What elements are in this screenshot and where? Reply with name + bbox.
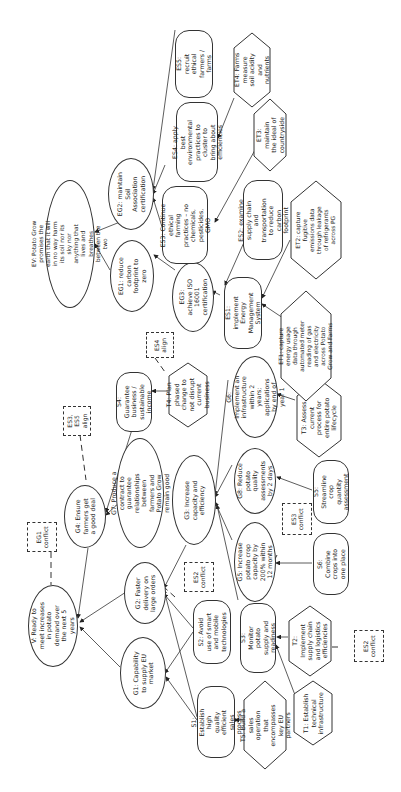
goal-g6-label: G6: Implement an infrastructure within 2… bbox=[225, 375, 286, 419]
goal-g1-label: G1: Capability to supply EU market bbox=[132, 651, 155, 695]
env-strategy-es1-label: ES1: implement Energy Management System bbox=[224, 293, 262, 334]
strategy-node-s1[interactable]: S1: Establish high quality efficient sal… bbox=[197, 686, 235, 758]
annotation-eg1-conflict[interactable]: EG1 conflict bbox=[27, 522, 57, 552]
tactic-t5-label: T5: Build a sales operation that encompa… bbox=[239, 703, 292, 747]
annotation-es4-align[interactable]: ES4 align bbox=[146, 332, 174, 358]
strategy-node-s4[interactable]: S4: Guarantee business / sustainable inc… bbox=[116, 372, 152, 432]
env-tactic-node-et4[interactable]: ET4: Farms measure soil acidity and nutr… bbox=[233, 32, 271, 108]
env-strategy-node-es3[interactable]: ES3: Continue ethical farming practices … bbox=[162, 186, 208, 264]
vision-label: V: Ready to meet increases in potato dem… bbox=[30, 602, 75, 650]
tactic-t2-label: T2: Implement supply chain and logistics… bbox=[291, 619, 329, 663]
env-goal-node-eg1[interactable]: EG1: reduce carbon footprint to zero bbox=[110, 240, 154, 312]
goal-node-g5[interactable]: G5: Increase potato crop capacity by 200… bbox=[234, 522, 276, 602]
tactic-node-t4[interactable]: T4: Plan phased change to not disrupt cu… bbox=[168, 362, 208, 428]
strategy-node-s5[interactable]: S5: Streamline crop quantity assessment bbox=[313, 460, 349, 524]
goal-g4-label: G4: Ensure farmers get a good deal bbox=[74, 497, 97, 537]
tactic-node-t2[interactable]: T2: Implement supply chain and logistics… bbox=[288, 605, 332, 677]
goal-node-g1[interactable]: G1: Capability to supply EU market bbox=[120, 637, 166, 709]
strategy-node-s3[interactable]: S3: Monitor potato supply and readiness bbox=[240, 603, 276, 673]
strategy-s5-label: S5: Streamline crop quantity assessment bbox=[312, 474, 350, 511]
env-goal-node-eg3[interactable]: EG3: achieve ISO 16001 certification bbox=[172, 262, 214, 332]
strategy-s2-label: S2: Avoid use of smart and mobile techno… bbox=[197, 612, 227, 651]
env-vision-node-ev[interactable]: EV: Potato Grow promises the earth that … bbox=[45, 180, 95, 308]
strategy-node-s6[interactable]: S6: Combine crops into one place bbox=[313, 533, 349, 595]
annotation-es2-conflict-t2-label: ES2 conflict bbox=[362, 632, 377, 660]
env-goal-eg3-label: EG3: achieve ISO 16001 certification bbox=[178, 277, 208, 317]
annotation-es3-conflict-g5-label: ES3 conflict bbox=[290, 505, 305, 533]
strategy-s3-label: S3: Monitor potato supply and readiness bbox=[239, 621, 277, 655]
env-strategy-node-es2[interactable]: ES2: examine supply chain and transporta… bbox=[243, 180, 283, 260]
goal-g2-label: G2: Faster delivery on large orders bbox=[134, 573, 157, 613]
env-tactic-et1-label: ET1: capture energy usage data through a… bbox=[278, 320, 335, 372]
annotation-es2-conflict-g2[interactable]: ES2 conflict bbox=[184, 562, 214, 592]
env-strategy-es2-label: ES2: examine supply chain and transporta… bbox=[237, 198, 290, 242]
env-strategy-node-es5[interactable]: ES5: recruit ethical farmers / farms bbox=[175, 30, 213, 98]
env-goal-eg1-label: EG1: reduce carbon footprint to zero bbox=[117, 255, 147, 297]
goal-node-g4[interactable]: G4: Ensure farmers get a good deal bbox=[64, 485, 106, 548]
tactic-node-t1[interactable]: T1: Establish technical infrastructure bbox=[293, 680, 333, 746]
tactic-t4-label: T4: Plan phased change to not disrupt cu… bbox=[165, 375, 210, 415]
goal-node-g8[interactable]: G8: Reduce potato quality assessments by… bbox=[234, 448, 276, 514]
goal-g7-label: G7: Produce a contract to guarantee rela… bbox=[110, 470, 171, 516]
env-tactic-et3-label: ET3: maintain the ideal of countryside bbox=[255, 117, 285, 153]
env-tactic-node-et1[interactable]: ET1: capture energy usage data through a… bbox=[280, 290, 332, 402]
env-goal-node-eg2[interactable]: EG2: maintain Soil Association certifica… bbox=[108, 158, 154, 230]
annotation-eg1-conflict-label: EG1 conflict bbox=[35, 523, 50, 551]
env-tactic-et2-label: ET2: capture fugitive emissions data thr… bbox=[295, 204, 337, 256]
env-strategy-es5-label: ES5: recruit ethical farmers / farms bbox=[175, 46, 213, 82]
env-strategy-node-es1[interactable]: ES1: implement Energy Management System bbox=[224, 277, 262, 349]
annotation-es2-conflict-g2-label: ES2 conflict bbox=[192, 563, 207, 591]
goal-node-g3[interactable]: G3: Increase capacity and efficiency bbox=[172, 455, 216, 545]
vision-node-v[interactable]: V: Ready to meet increases in potato dem… bbox=[28, 585, 78, 667]
env-strategy-es3-label: ES3: Continue ethical farming practices … bbox=[159, 203, 212, 247]
env-tactic-et4-label: ET4: Farms measure soil acidity and nutr… bbox=[233, 51, 271, 89]
goal-g8-label: G8: Reduce potato quality assessments by… bbox=[236, 461, 274, 501]
goal-node-g6[interactable]: G6: Implement an infrastructure within 2… bbox=[232, 356, 278, 438]
strategy-node-s2[interactable]: S2: Avoid use of smart and mobile techno… bbox=[193, 600, 231, 664]
env-strategy-es4-label: ES4: apply best environmental practices … bbox=[171, 120, 224, 165]
annotation-es3-es5-align[interactable]: ES3, ES5 align bbox=[63, 406, 91, 436]
env-tactic-node-et2[interactable]: ET2: capture fugitive emissions data thr… bbox=[290, 180, 342, 280]
strategy-s1-label: S1: Establish high quality efficient sal… bbox=[190, 704, 243, 740]
env-goal-eg2-label: EG2: maintain Soil Association certifica… bbox=[116, 172, 146, 216]
annotation-es3-es5-align-label: ES3, ES5 align bbox=[66, 408, 88, 434]
env-strategy-node-es4[interactable]: ES4: apply best environmental practices … bbox=[176, 102, 218, 182]
strategy-s4-label: S4: Guarantee business / sustainable inc… bbox=[115, 384, 153, 419]
env-tactic-node-et3[interactable]: ET3: maintain the ideal of countryside bbox=[253, 98, 287, 172]
env-vision-label: EV: Potato Grow promises the earth that … bbox=[31, 220, 109, 268]
goal-node-g7[interactable]: G7: Produce a contract to guarantee rela… bbox=[116, 438, 164, 548]
goal-g3-label: G3: Increase capacity and efficiency bbox=[183, 479, 206, 521]
annotation-es3-conflict-g5[interactable]: ES3 conflict bbox=[282, 503, 312, 535]
tactic-t1-label: T1: Establish technical infrastructure bbox=[302, 692, 325, 734]
annotation-es2-conflict-t2[interactable]: ES2 conflict bbox=[354, 630, 384, 662]
tactic-node-t5[interactable]: T5: Build a sales operation that encompa… bbox=[243, 680, 287, 770]
annotation-es4-align-label: ES4 align bbox=[153, 334, 168, 356]
strategy-s6-label: S6: Combine crops into one place bbox=[316, 547, 346, 581]
goal-node-g2[interactable]: G2: Faster delivery on large orders bbox=[124, 562, 166, 624]
goal-g5-label: G5: Increase potato crop capacity by 200… bbox=[236, 542, 274, 582]
